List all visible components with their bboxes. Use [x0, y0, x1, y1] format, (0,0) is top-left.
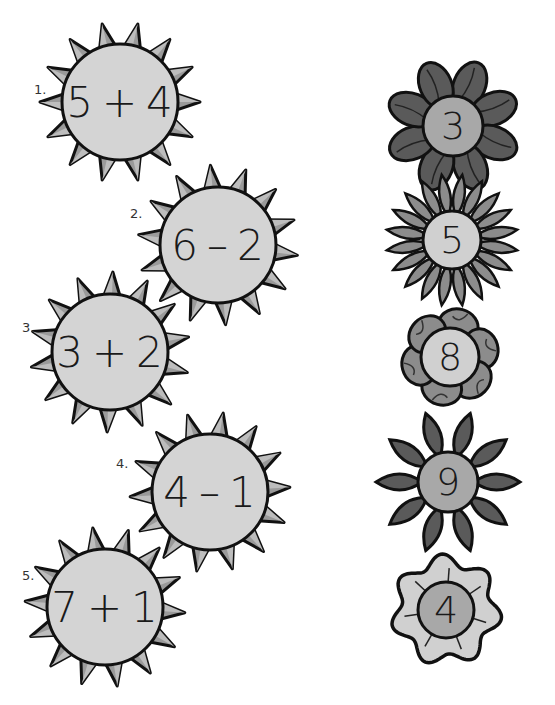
- flower-answer-5[interactable]: 5: [382, 170, 522, 310]
- operand-right: 2: [237, 221, 265, 270]
- operand-right: 2: [136, 328, 164, 377]
- problem-number-3: 3.: [22, 320, 34, 335]
- operator: –: [207, 221, 229, 270]
- flower-answer-8[interactable]: 8: [395, 302, 505, 412]
- operand-right: 1: [229, 468, 257, 517]
- problem-number-4: 4.: [116, 456, 128, 471]
- operator: –: [199, 468, 221, 517]
- operand-left: 6: [171, 221, 199, 270]
- flower-answer-9[interactable]: 9: [373, 407, 523, 557]
- operand-right: 4: [146, 78, 174, 127]
- flower-number: 8: [395, 302, 505, 412]
- operand-left: 7: [51, 583, 79, 632]
- sun-problem-1[interactable]: 5 + 4: [38, 20, 202, 184]
- operator: +: [102, 78, 138, 127]
- expression: 5 + 4: [38, 20, 202, 184]
- sun-problem-5[interactable]: 7 + 1: [23, 525, 187, 689]
- flower-number: 4: [386, 550, 506, 670]
- flower-number: 9: [373, 407, 523, 557]
- problem-number-1: 1.: [34, 82, 46, 97]
- expression: 7 + 1: [23, 525, 187, 689]
- operand-right: 1: [131, 583, 159, 632]
- operand-left: 5: [66, 78, 94, 127]
- operand-left: 4: [163, 468, 191, 517]
- operator: +: [92, 328, 128, 377]
- math-worksheet: 5 + 4 1. 6 – 2 2. 3 + 2 3.: [0, 0, 555, 705]
- problem-number-5: 5.: [22, 568, 34, 583]
- flower-answer-4[interactable]: 4: [386, 550, 506, 670]
- operator: +: [87, 583, 123, 632]
- problem-number-2: 2.: [130, 206, 142, 221]
- flower-number: 5: [382, 170, 522, 310]
- operand-left: 3: [56, 328, 84, 377]
